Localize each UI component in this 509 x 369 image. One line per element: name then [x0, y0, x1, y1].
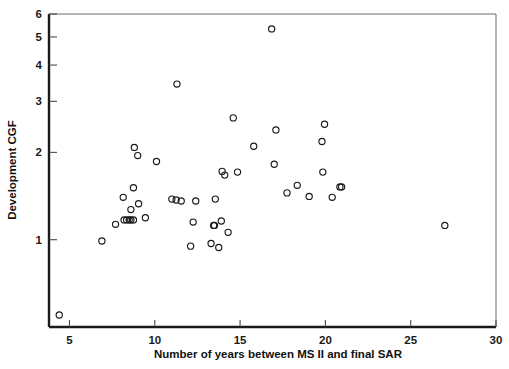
- chart-figure: 51015202530 123456 Number of years betwe…: [0, 0, 509, 369]
- data-point: [442, 222, 448, 228]
- data-point: [251, 143, 257, 149]
- data-point: [99, 238, 105, 244]
- data-point: [225, 229, 231, 235]
- data-point: [188, 243, 194, 249]
- x-tick-label: 15: [234, 334, 247, 346]
- data-points: [56, 26, 448, 318]
- y-tick-label: 3: [36, 95, 42, 107]
- data-point: [120, 194, 126, 200]
- data-point: [218, 218, 224, 224]
- data-point: [329, 194, 335, 200]
- x-tick-label: 10: [148, 334, 161, 346]
- data-point: [112, 221, 118, 227]
- data-point: [190, 219, 196, 225]
- data-point: [131, 144, 137, 150]
- data-point: [208, 240, 214, 246]
- data-point: [169, 196, 175, 202]
- y-tick-label: 2: [36, 146, 42, 158]
- data-point: [269, 26, 275, 32]
- data-point: [321, 121, 327, 127]
- data-point: [284, 190, 290, 196]
- x-tick-label: 20: [319, 334, 332, 346]
- x-tick-label: 25: [404, 334, 417, 346]
- y-tick-label: 6: [36, 8, 42, 20]
- y-tick-label: 4: [36, 59, 43, 71]
- data-point: [212, 196, 218, 202]
- data-point: [294, 182, 300, 188]
- data-point: [153, 158, 159, 164]
- y-tick-label: 5: [36, 31, 43, 43]
- x-axis-ticks: 51015202530: [66, 320, 502, 346]
- data-point: [128, 206, 134, 212]
- data-point: [273, 127, 279, 133]
- data-point: [193, 198, 199, 204]
- x-axis-title: Number of years between MS II and final …: [154, 348, 403, 360]
- data-point: [142, 215, 148, 221]
- data-point: [130, 185, 136, 191]
- data-point: [230, 115, 236, 121]
- data-point: [319, 138, 325, 144]
- data-point: [135, 152, 141, 158]
- scatter-plot-svg: 51015202530 123456 Number of years betwe…: [0, 0, 509, 369]
- y-axis-title: Development CGF: [6, 120, 18, 220]
- plot-frame: [49, 14, 496, 327]
- data-point: [174, 81, 180, 87]
- data-point: [306, 193, 312, 199]
- data-point: [135, 201, 141, 207]
- y-tick-label: 1: [36, 234, 43, 246]
- data-point: [271, 161, 277, 167]
- data-point: [320, 169, 326, 175]
- data-point: [234, 169, 240, 175]
- data-point: [216, 244, 222, 250]
- x-tick-label: 5: [66, 334, 73, 346]
- y-axis-ticks: 123456: [36, 8, 57, 246]
- data-point: [56, 312, 62, 318]
- x-tick-label: 30: [490, 334, 503, 346]
